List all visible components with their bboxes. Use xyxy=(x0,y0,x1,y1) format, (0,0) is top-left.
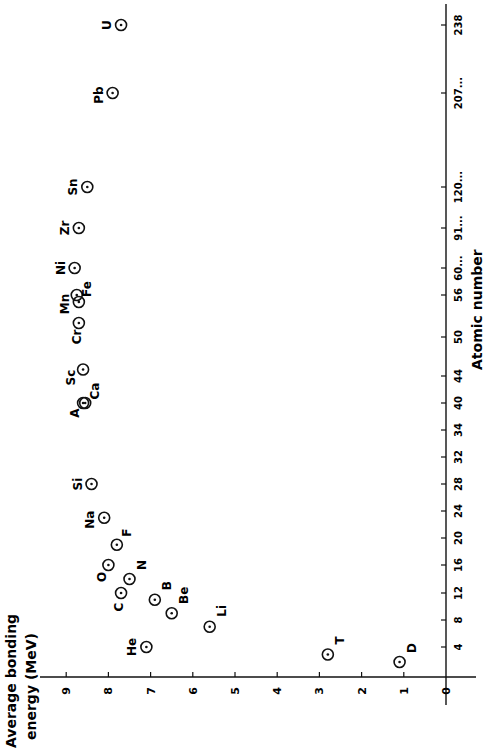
mass-tick-label: 12 xyxy=(453,586,464,600)
point-label: Cr xyxy=(70,330,84,345)
data-point-li: Li xyxy=(204,605,229,632)
data-point-t: T xyxy=(322,636,347,660)
x-axis-title: Atomic number xyxy=(469,249,485,370)
point-label: Si xyxy=(71,478,85,491)
point-label: Na xyxy=(83,511,97,529)
point-label: C xyxy=(112,602,126,611)
data-point-u: U xyxy=(100,20,127,31)
energy-tick-label: 1 xyxy=(398,687,411,695)
data-point-n: N xyxy=(124,560,149,585)
point-label: Mn xyxy=(58,294,72,314)
point-label: Sn xyxy=(66,178,80,195)
data-point-sc: Sc xyxy=(64,364,89,385)
data-point-cr: Cr xyxy=(70,318,85,345)
data-point-b: B xyxy=(149,581,174,605)
mass-tick-label: 40 xyxy=(453,396,464,410)
energy-tick-label: 2 xyxy=(356,687,369,695)
binding-energy-chart: 012345678948121620242832344044505660...9… xyxy=(0,0,488,748)
point-label: B xyxy=(160,581,174,590)
data-point-sn: Sn xyxy=(66,178,93,195)
energy-tick-label: 7 xyxy=(145,687,158,695)
mass-tick-label: 4 xyxy=(453,643,464,650)
point-label: U xyxy=(100,20,114,30)
mass-tick-label: 28 xyxy=(453,477,464,491)
mass-tick-label: 8 xyxy=(453,616,464,623)
point-label: Sc xyxy=(64,370,78,386)
point-label: Ni xyxy=(54,261,68,275)
point-label: O xyxy=(95,572,109,582)
data-point-he: He xyxy=(125,638,152,656)
point-label: Zr xyxy=(58,221,72,236)
mass-tick-label: 16 xyxy=(453,558,464,572)
mass-tick-label: 120... xyxy=(453,171,464,203)
energy-tick-label: 4 xyxy=(271,687,284,695)
data-points: DTHeLiBeBCNOFNaSiACaScCrMnFeNiZrSnPbU xyxy=(54,20,419,668)
data-point-zr: Zr xyxy=(58,221,85,236)
mass-tick-label: 91... xyxy=(453,215,464,240)
point-label: F xyxy=(120,529,134,537)
mass-tick-label: 238 xyxy=(453,15,464,36)
point-label: Li xyxy=(215,605,229,617)
point-label: Pb xyxy=(92,86,106,104)
point-label: Be xyxy=(177,587,191,604)
point-label: A xyxy=(68,408,82,418)
energy-tick-label: 6 xyxy=(187,687,200,695)
mass-tick-label: 207... xyxy=(453,77,464,109)
mass-tick-label: 60... xyxy=(453,255,464,280)
mass-tick-label: 34 xyxy=(453,423,464,437)
point-label: D xyxy=(405,643,419,653)
energy-tick-label: 0 xyxy=(440,687,453,695)
data-point-pb: Pb xyxy=(92,86,119,104)
axis-titles: Average bonding energy (MeV) Atomic numb… xyxy=(3,249,485,748)
mass-tick-label: 32 xyxy=(453,450,464,464)
point-label: N xyxy=(135,560,149,570)
point-label: He xyxy=(125,638,139,656)
data-point-f: F xyxy=(111,529,134,551)
y-axis-title-line1: Average bonding xyxy=(3,614,19,748)
data-point-be: Be xyxy=(166,587,191,619)
data-point-c: C xyxy=(112,588,127,612)
data-point-ca: Ca xyxy=(80,383,103,409)
energy-tick-label: 9 xyxy=(60,687,73,695)
mass-tick-label: 44 xyxy=(453,369,464,383)
point-label: Fe xyxy=(80,281,94,297)
data-point-ni: Ni xyxy=(54,261,81,275)
mass-tick-label: 50 xyxy=(453,330,464,344)
point-label: T xyxy=(333,636,347,645)
energy-tick-label: 3 xyxy=(313,687,326,695)
energy-tick-label: 8 xyxy=(102,687,115,695)
data-point-a: A xyxy=(68,398,89,418)
mass-tick-label: 56 xyxy=(453,288,464,302)
point-label: Ca xyxy=(88,383,102,400)
data-point-na: Na xyxy=(83,511,110,529)
energy-tick-label: 5 xyxy=(229,687,242,695)
data-point-si: Si xyxy=(71,478,98,491)
axes: 012345678948121620242832344044505660...9… xyxy=(40,4,476,705)
data-point-o: O xyxy=(95,560,114,583)
y-axis-title-line2: energy (MeV) xyxy=(23,633,39,740)
data-point-d: D xyxy=(394,643,419,668)
mass-tick-label: 20 xyxy=(453,531,464,545)
mass-tick-label: 24 xyxy=(453,504,464,518)
